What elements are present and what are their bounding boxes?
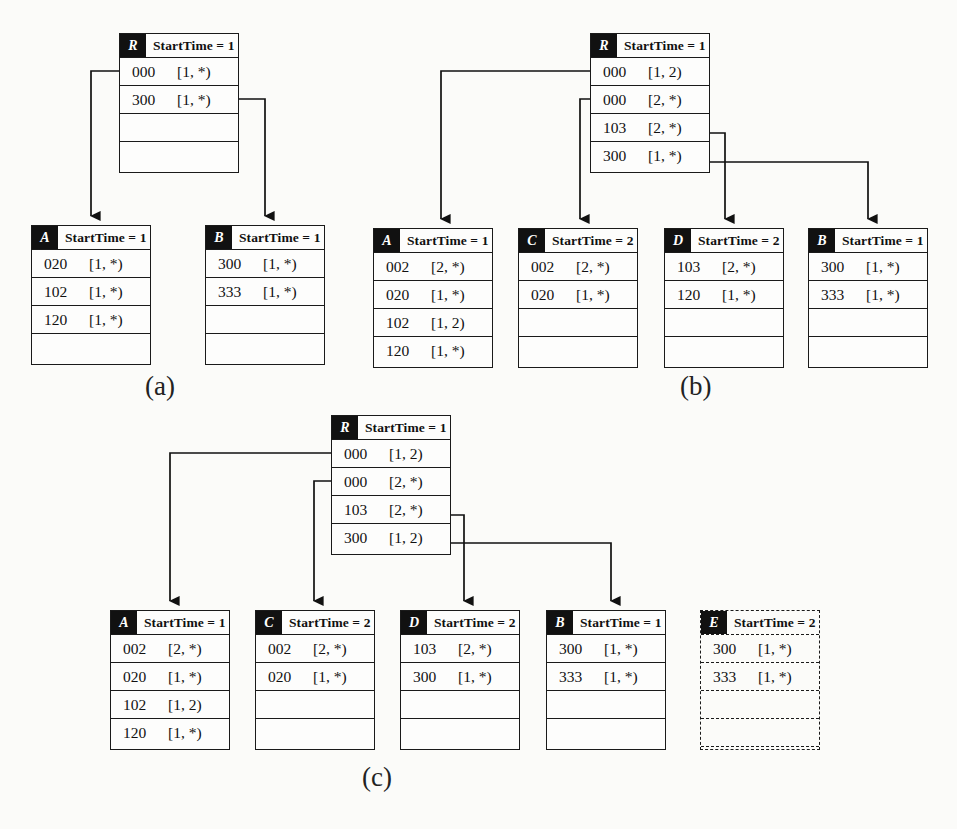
node-row[interactable]: 120[1, *) [374,337,492,365]
row-interval: [1, *) [177,91,211,109]
node-row-empty[interactable] [120,142,238,170]
node-row-empty[interactable] [206,306,324,334]
node-a-B[interactable]: BStartTime = 1300[1, *)333[1, *) [205,225,325,365]
node-row[interactable]: 103[2, *) [332,496,450,524]
node-row[interactable]: 102[1, 2) [111,691,229,719]
row-interval: [1, 2) [648,63,682,81]
node-b-B[interactable]: BStartTime = 1300[1, *)333[1, *) [808,228,928,368]
node-row[interactable]: 020[1, *) [256,663,374,691]
node-row[interactable]: 000[1, 2) [591,58,709,86]
node-row[interactable]: 333[1, *) [809,281,927,309]
node-row-empty[interactable] [809,337,927,365]
node-starttime-label: StartTime = 1 [573,611,665,634]
node-row-empty[interactable] [547,719,665,747]
node-row[interactable]: 002[2, *) [256,635,374,663]
node-tag-label: R [120,34,146,57]
row-interval: [1, 2) [168,696,202,714]
node-row[interactable]: 300[1, *) [206,250,324,278]
node-row[interactable]: 020[1, *) [111,663,229,691]
row-key: 120 [386,342,431,360]
node-row[interactable]: 333[1, *) [547,663,665,691]
node-row-empty[interactable] [665,309,783,337]
row-key: 103 [344,501,389,519]
row-interval: [1, *) [168,724,202,742]
node-c-E[interactable]: EStartTime = 2300[1, *)333[1, *) [700,610,820,750]
node-row-empty[interactable] [809,309,927,337]
node-tag-label: B [809,229,835,252]
node-row[interactable]: 102[1, *) [32,278,150,306]
node-row[interactable]: 103[2, *) [401,635,519,663]
node-row[interactable]: 300[1, *) [701,635,819,663]
node-row[interactable]: 020[1, *) [32,250,150,278]
node-row[interactable]: 000[1, *) [120,58,238,86]
node-row-empty[interactable] [32,334,150,362]
node-b-root[interactable]: RStartTime = 1000[1, 2)000[2, *)103[2, *… [590,33,710,173]
node-row[interactable]: 120[1, *) [32,306,150,334]
node-row[interactable]: 102[1, 2) [374,309,492,337]
node-row[interactable]: 300[1, *) [401,663,519,691]
node-header-c-B: BStartTime = 1 [547,611,665,635]
node-row[interactable]: 333[1, *) [701,663,819,691]
panel-caption-cap-a: (a) [145,371,175,402]
node-row-empty[interactable] [701,691,819,719]
node-row[interactable]: 300[1, *) [547,635,665,663]
node-row[interactable]: 103[2, *) [665,253,783,281]
node-row-empty[interactable] [665,337,783,365]
node-row-empty[interactable] [547,691,665,719]
node-row[interactable]: 000[2, *) [332,468,450,496]
row-interval: [1, *) [866,258,900,276]
node-c-C[interactable]: CStartTime = 2002[2, *)020[1, *) [255,610,375,750]
node-header-b-A: AStartTime = 1 [374,229,492,253]
node-b-A[interactable]: AStartTime = 1002[2, *)020[1, *)102[1, 2… [373,228,493,368]
node-row-empty[interactable] [701,719,819,747]
node-row[interactable]: 002[2, *) [111,635,229,663]
node-row[interactable]: 000[1, 2) [332,440,450,468]
node-tag-label: B [206,226,232,249]
node-starttime-label: StartTime = 1 [400,229,492,252]
row-key: 120 [677,286,722,304]
row-interval: [1, *) [431,342,465,360]
node-row-empty[interactable] [256,691,374,719]
node-row[interactable]: 120[1, *) [111,719,229,747]
row-key: 020 [44,255,89,273]
node-row[interactable]: 333[1, *) [206,278,324,306]
node-row-empty[interactable] [519,337,637,365]
node-a-root[interactable]: RStartTime = 1000[1, *)300[1, *) [119,33,239,173]
node-row-empty[interactable] [401,691,519,719]
node-c-A[interactable]: AStartTime = 1002[2, *)020[1, *)102[1, 2… [110,610,230,750]
node-row[interactable]: 000[2, *) [591,86,709,114]
row-key: 000 [344,473,389,491]
node-row-empty[interactable] [206,334,324,362]
row-key: 300 [821,258,866,276]
node-row-empty[interactable] [256,719,374,747]
node-row-empty[interactable] [519,309,637,337]
row-interval: [1, *) [722,286,756,304]
node-row[interactable]: 120[1, *) [665,281,783,309]
edge-a-edge-000-A [91,71,119,216]
node-c-D[interactable]: DStartTime = 2103[2, *)300[1, *) [400,610,520,750]
node-row[interactable]: 300[1, *) [120,86,238,114]
row-interval: [1, 2) [389,445,423,463]
row-interval: [1, *) [758,640,792,658]
node-row[interactable]: 002[2, *) [519,253,637,281]
node-b-D[interactable]: DStartTime = 2103[2, *)120[1, *) [664,228,784,368]
edge-b-edge-0-A [441,71,590,219]
node-row[interactable]: 300[1, *) [809,253,927,281]
node-row[interactable]: 300[1, 2) [332,524,450,552]
node-header-b-D: DStartTime = 2 [665,229,783,253]
edge-b-edge-2-D [710,133,725,219]
node-c-B[interactable]: BStartTime = 1300[1, *)333[1, *) [546,610,666,750]
node-row[interactable]: 103[2, *) [591,114,709,142]
node-row[interactable]: 020[1, *) [519,281,637,309]
row-key: 000 [603,91,648,109]
node-a-A[interactable]: AStartTime = 1020[1, *)102[1, *)120[1, *… [31,225,151,365]
node-row-empty[interactable] [401,719,519,747]
node-header-b-root: RStartTime = 1 [591,34,709,58]
node-c-root[interactable]: RStartTime = 1000[1, 2)000[2, *)103[2, *… [331,415,451,555]
node-row-empty[interactable] [120,114,238,142]
node-row[interactable]: 002[2, *) [374,253,492,281]
node-row[interactable]: 300[1, *) [591,142,709,170]
node-row[interactable]: 020[1, *) [374,281,492,309]
row-key: 020 [531,286,576,304]
node-b-C[interactable]: CStartTime = 2002[2, *)020[1, *) [518,228,638,368]
